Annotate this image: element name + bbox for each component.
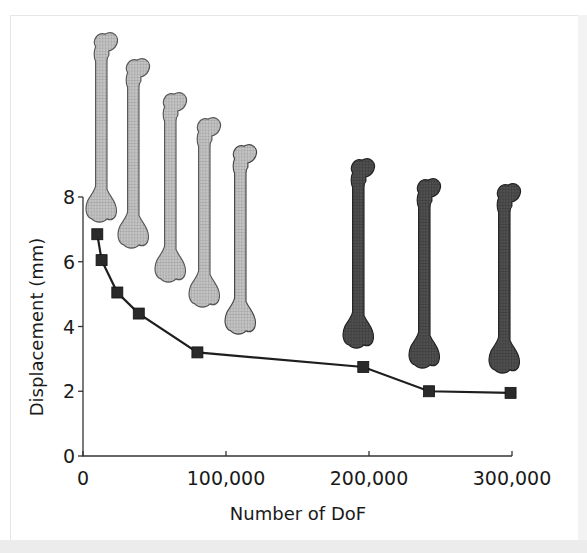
data-series — [92, 229, 516, 399]
x-tick-label: 300,000 — [473, 467, 552, 489]
data-point-marker — [358, 361, 369, 372]
femur-icon-coarse-5 — [225, 145, 256, 334]
x-ticks — [83, 451, 512, 456]
y-tick-label: 8 — [63, 186, 75, 208]
y-tick-label: 4 — [63, 316, 75, 338]
y-tick-label: 6 — [63, 251, 75, 273]
femur-icon-coarse-2 — [118, 59, 149, 248]
femur-icon-coarse-4 — [189, 118, 220, 307]
y-tick-label: 2 — [63, 380, 75, 402]
data-point-marker — [424, 386, 435, 397]
y-tick-label: 0 — [63, 445, 75, 467]
data-point-marker — [92, 229, 103, 240]
y-axis-title: Displacement (mm) — [26, 238, 47, 417]
femur-icon-fine-1 — [343, 159, 374, 348]
data-point-marker — [133, 308, 144, 319]
x-tick-label: 200,000 — [330, 467, 409, 489]
x-tick-label: 100,000 — [187, 467, 266, 489]
x-tick-label: 0 — [77, 467, 89, 489]
femur-icon-coarse-1 — [86, 33, 117, 222]
data-point-marker — [192, 347, 203, 358]
data-point-marker — [505, 387, 516, 398]
data-point-marker — [112, 287, 123, 298]
femur-icon-coarse-3 — [155, 93, 186, 282]
chart-svg: 02468 0100,000200,000300,000 Number of D… — [0, 0, 587, 553]
femur-icon-fine-3 — [489, 184, 520, 373]
x-tick-labels: 0100,000200,000300,000 — [77, 467, 551, 489]
y-tick-labels: 02468 — [63, 186, 75, 467]
data-point-marker — [96, 255, 107, 266]
femur-icon-fine-2 — [409, 179, 440, 368]
y-ticks — [78, 197, 83, 456]
x-axis-title: Number of DoF — [230, 503, 366, 524]
